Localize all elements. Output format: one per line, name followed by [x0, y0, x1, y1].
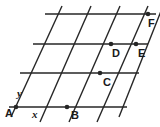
point-a-label: A: [5, 108, 13, 119]
point-d-dot: [109, 42, 114, 47]
slanted-line-3: [69, 6, 120, 122]
slanted-lines-group: [11, 6, 160, 122]
point-e-dot: [134, 42, 139, 47]
ray-label-y: y: [17, 88, 22, 99]
point-f-dot: [146, 12, 151, 17]
point-b-dot: [65, 105, 70, 110]
point-c-label: C: [103, 77, 111, 88]
slanted-line-2: [40, 6, 91, 122]
point-c-dot: [98, 71, 103, 76]
point-a-dot: [14, 105, 19, 110]
ray-label-x: x: [32, 109, 38, 120]
grid-svg: [0, 0, 160, 127]
point-d-label: D: [112, 48, 120, 59]
point-b-label: B: [71, 110, 79, 121]
point-e-label: E: [138, 48, 145, 59]
geometry-figure: ABCDEFyx: [0, 0, 160, 127]
point-f-label: F: [148, 18, 155, 29]
horizontal-lines-group: [9, 14, 156, 107]
slanted-line-1: [11, 6, 62, 117]
